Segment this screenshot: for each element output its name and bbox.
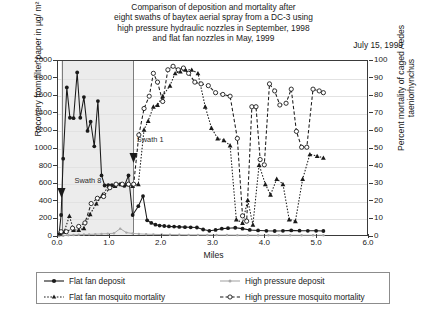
data-point — [83, 233, 85, 235]
data-point — [146, 118, 151, 122]
data-point — [321, 155, 326, 159]
data-point — [61, 157, 65, 161]
legend-label: High pressure mosquito mortality — [245, 293, 365, 302]
data-point — [96, 99, 100, 103]
data-point — [67, 234, 69, 236]
data-point — [267, 234, 269, 236]
data-point — [298, 229, 302, 233]
data-point — [195, 226, 199, 230]
legend-label: Flat fan deposit — [69, 277, 125, 286]
data-point — [317, 89, 321, 93]
data-point — [215, 234, 217, 236]
data-point — [178, 234, 180, 236]
data-point — [215, 136, 220, 140]
data-point — [315, 154, 320, 158]
y-tick-200: 200 — [18, 213, 52, 222]
x-axis-label: Miles — [0, 250, 427, 260]
data-point — [257, 234, 259, 236]
data-point — [187, 71, 191, 75]
data-point — [158, 224, 162, 228]
swath-arrow-marker — [128, 151, 139, 164]
data-point — [203, 104, 208, 108]
data-point — [149, 221, 153, 225]
data-point — [206, 234, 208, 236]
data-point — [166, 68, 170, 72]
data-point — [68, 116, 72, 120]
data-point — [284, 101, 288, 105]
data-point — [177, 225, 181, 229]
data-point — [209, 125, 214, 129]
legend-item-high-pressure-deposit: High pressure deposit — [213, 276, 391, 286]
data-point — [221, 92, 225, 96]
data-point — [233, 226, 237, 230]
data-point — [289, 87, 293, 91]
data-point — [141, 194, 145, 198]
data-point — [263, 182, 268, 186]
data-point — [256, 229, 260, 233]
title-line-3: high pressure hydraulic nozzles in Septe… — [0, 23, 427, 33]
data-point — [65, 86, 69, 90]
data-point — [287, 217, 292, 221]
data-point — [181, 66, 185, 70]
data-point — [145, 218, 149, 222]
data-point — [214, 228, 218, 232]
data-point — [305, 145, 309, 149]
data-point — [321, 91, 325, 95]
legend-key-solid-filled-circle — [43, 276, 65, 286]
data-point — [151, 71, 155, 75]
data-point — [161, 99, 165, 103]
data-point — [92, 144, 96, 148]
x-tick-2.0: 2.0 — [146, 238, 176, 247]
x-tick-1.0: 1.0 — [94, 238, 124, 247]
data-point — [62, 234, 64, 236]
data-point — [267, 82, 271, 86]
data-point — [126, 182, 130, 186]
data-point — [241, 227, 245, 231]
data-point — [268, 192, 273, 196]
data-point — [95, 196, 99, 200]
data-point — [136, 204, 140, 208]
y2-tick-30: 30 — [374, 178, 404, 187]
data-point — [132, 182, 136, 186]
data-point — [70, 226, 74, 230]
x-tick-5.0: 5.0 — [301, 238, 331, 247]
data-point — [314, 229, 318, 233]
data-point — [322, 234, 324, 236]
data-point — [171, 64, 175, 68]
data-point — [300, 234, 302, 236]
data-point — [193, 80, 197, 84]
data-point — [207, 229, 211, 233]
data-point — [213, 91, 217, 95]
data-point — [278, 103, 282, 107]
data-point — [172, 225, 176, 229]
data-point — [196, 71, 201, 75]
data-point — [206, 84, 210, 88]
legend-key-dashed-open-circle — [219, 292, 241, 302]
data-point — [78, 234, 80, 236]
legend-label: High pressure deposit — [245, 277, 325, 286]
data-point — [151, 104, 156, 108]
y-axis-label: Recovery from filter paper in µg/ m² — [33, 0, 43, 159]
data-point — [67, 213, 72, 217]
data-point — [64, 230, 68, 234]
y-tick-600: 600 — [18, 178, 52, 187]
data-point — [220, 227, 224, 231]
data-point — [127, 174, 131, 178]
data-point — [102, 194, 106, 198]
data-point — [278, 234, 280, 236]
data-point — [189, 225, 193, 229]
legend-item-high-pressure-mosquito-mortality: High pressure mosquito mortality — [213, 292, 391, 302]
title-line-2: eight swaths of baytex aerial spray from… — [0, 12, 427, 22]
data-point — [300, 177, 305, 181]
data-point — [245, 219, 249, 223]
data-point — [136, 182, 141, 186]
data-point — [77, 224, 81, 228]
data-point — [197, 234, 199, 236]
data-point — [155, 103, 160, 107]
data-point — [257, 162, 262, 166]
data-point — [138, 233, 140, 235]
data-point — [254, 105, 258, 109]
data-point — [308, 152, 313, 156]
data-point — [289, 234, 291, 236]
data-point — [108, 186, 112, 190]
